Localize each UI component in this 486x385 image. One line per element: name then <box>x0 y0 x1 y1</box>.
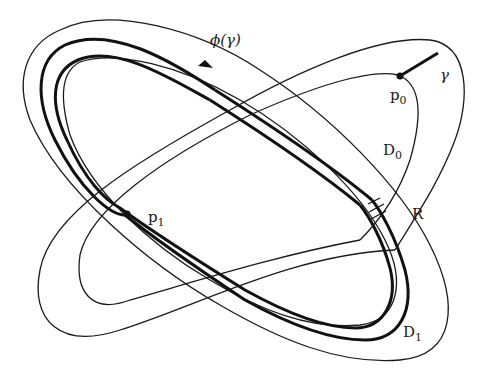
phi-gamma-middle-strand-a <box>215 90 372 200</box>
d0-outer-lower-strand <box>120 250 395 330</box>
label-d0: D0 <box>383 141 402 162</box>
label-r: R <box>412 205 424 223</box>
label-gamma: γ <box>440 66 449 84</box>
label-p0: p0 <box>390 86 407 107</box>
label-d1: D1 <box>403 323 422 344</box>
label-p1: p1 <box>148 208 165 229</box>
label-phi-gamma: ϕ(γ) <box>210 31 241 49</box>
phi-gamma-arrow-icon <box>198 60 213 68</box>
p1-point <box>124 211 131 218</box>
phi-gamma-middle-strand-b <box>210 100 360 205</box>
gamma-segment <box>400 53 438 76</box>
diagram-canvas: ϕ(γ) γ p0 p1 D0 D1 R <box>0 0 486 385</box>
p0-point <box>397 73 404 80</box>
d0-inner-boundary <box>79 74 418 305</box>
